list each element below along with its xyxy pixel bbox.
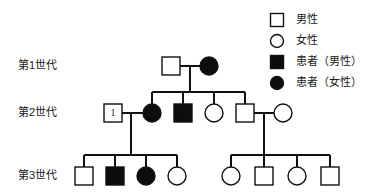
pedigree-individual-i-1[interactable] xyxy=(162,57,180,75)
pedigree-individual-ii-5[interactable] xyxy=(236,104,254,122)
legend-item-0: 男性 xyxy=(271,12,319,26)
pedigree-individual-iii-4[interactable] xyxy=(168,167,186,185)
pedigree-individual-ii-4[interactable] xyxy=(205,104,223,122)
affected-female-symbol xyxy=(137,167,155,185)
affected-male-symbol xyxy=(174,104,192,122)
legend-item-2: 患者（男性） xyxy=(271,54,363,68)
pedigree-individual-iii-2[interactable] xyxy=(106,167,124,185)
legend-item-1: 女性 xyxy=(271,33,319,47)
legend-female-icon xyxy=(271,35,284,48)
legend-item-label: 女性 xyxy=(296,33,318,46)
legend-layer: 男性女性患者（男性）患者（女性） xyxy=(271,12,363,89)
pedigree-individual-i-2[interactable] xyxy=(200,57,218,75)
male-symbol xyxy=(75,167,93,185)
legend-item-label: 男性 xyxy=(296,12,318,25)
pedigree-individual-iii-7[interactable] xyxy=(288,167,306,185)
pedigree-individual-iii-5[interactable] xyxy=(222,167,240,185)
male-symbol xyxy=(255,167,273,185)
affected-female-symbol xyxy=(143,104,161,122)
generation-label-gen1: 第1世代 xyxy=(18,58,57,71)
legend-item-label: 患者（女性） xyxy=(296,75,362,88)
pedigree-individual-iii-1[interactable] xyxy=(75,167,93,185)
legend-affected-female-icon xyxy=(271,77,284,90)
legend-affected-male-icon xyxy=(271,56,284,69)
affected-male-symbol xyxy=(106,167,124,185)
pedigree-individual-ii-6[interactable] xyxy=(274,104,292,122)
generation-label-gen3: 第3世代 xyxy=(18,168,57,181)
generation-label-gen2: 第2世代 xyxy=(18,105,57,118)
legend-male-icon xyxy=(271,14,284,27)
pedigree-individual-iii-8[interactable] xyxy=(321,167,339,185)
male-symbol xyxy=(162,57,180,75)
female-symbol xyxy=(288,167,306,185)
individual-badge-label: 1 xyxy=(111,107,116,118)
female-symbol xyxy=(168,167,186,185)
pedigree-individual-ii-3[interactable] xyxy=(174,104,192,122)
female-symbol xyxy=(205,104,223,122)
pedigree-individual-ii-2[interactable] xyxy=(143,104,161,122)
female-symbol xyxy=(222,167,240,185)
male-symbol xyxy=(321,167,339,185)
male-symbol xyxy=(236,104,254,122)
generation-label-layer: 第1世代第2世代第3世代 xyxy=(18,58,57,181)
pedigree-chart: 1 第1世代第2世代第3世代 男性女性患者（男性）患者（女性） xyxy=(0,0,383,195)
pedigree-individual-iii-6[interactable] xyxy=(255,167,273,185)
female-symbol xyxy=(274,104,292,122)
pedigree-canvas: 1 第1世代第2世代第3世代 男性女性患者（男性）患者（女性） xyxy=(0,0,383,195)
affected-female-symbol xyxy=(200,57,218,75)
pedigree-individual-ii-1[interactable]: 1 xyxy=(104,104,122,122)
legend-item-label: 患者（男性） xyxy=(296,54,362,67)
pedigree-individual-iii-3[interactable] xyxy=(137,167,155,185)
legend-item-3: 患者（女性） xyxy=(271,75,363,89)
